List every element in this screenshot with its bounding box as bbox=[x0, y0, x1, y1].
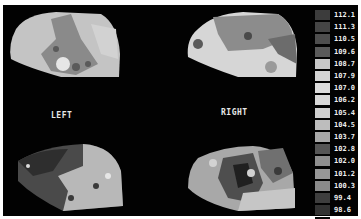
legend-row: 111.3 bbox=[310, 21, 358, 33]
legend-value: 101.2 bbox=[334, 170, 355, 178]
legend-swatch bbox=[315, 22, 330, 32]
legend-swatch bbox=[315, 217, 330, 219]
legend-swatch bbox=[315, 156, 330, 166]
legend-swatch bbox=[315, 120, 330, 130]
legend-row: 112.1 bbox=[310, 9, 358, 21]
legend-swatch bbox=[315, 169, 330, 179]
legend-swatch bbox=[315, 47, 330, 57]
legend-value: 107.9 bbox=[334, 72, 355, 80]
legend-value: 110.5 bbox=[334, 35, 355, 43]
legend-value: 99.4 bbox=[334, 194, 351, 202]
legend-row: 107.9 bbox=[310, 70, 358, 82]
legend-row: 108.7 bbox=[310, 58, 358, 70]
legend-swatch bbox=[315, 71, 330, 81]
legend-swatch bbox=[315, 83, 330, 93]
legend-swatch bbox=[315, 181, 330, 191]
legend-swatch bbox=[315, 132, 330, 142]
legend-value: 98.6 bbox=[334, 206, 351, 214]
legend-value: 108.7 bbox=[334, 60, 355, 68]
right-bottom-map bbox=[183, 143, 298, 213]
legend-row: 109.6 bbox=[310, 46, 358, 58]
legend-swatch bbox=[315, 10, 330, 20]
legend-row: 98.6 bbox=[310, 204, 358, 216]
left-top-map bbox=[6, 9, 121, 79]
legend-row: 102.8 bbox=[310, 143, 358, 155]
legend-swatch bbox=[315, 144, 330, 154]
legend-swatch bbox=[315, 95, 330, 105]
legend-swatch bbox=[315, 205, 330, 215]
color-legend: 112.1111.3110.5109.6108.7107.9107.0106.2… bbox=[310, 9, 358, 219]
legend-row: 105.4 bbox=[310, 107, 358, 119]
legend-row: 103.7 bbox=[310, 131, 358, 143]
legend-value: 97.7 bbox=[334, 218, 351, 219]
left-label: LEFT bbox=[51, 111, 72, 120]
legend-value: 100.3 bbox=[334, 182, 355, 190]
right-label: RIGHT bbox=[221, 108, 248, 117]
legend-value: 111.3 bbox=[334, 23, 355, 31]
legend-value: 105.4 bbox=[334, 109, 355, 117]
legend-value: 103.7 bbox=[334, 133, 355, 141]
figure-panel: LEFT RIGHT 112.1111.3110.5109.6108.7107.… bbox=[3, 5, 358, 216]
legend-row: 100.3 bbox=[310, 180, 358, 192]
right-top-map bbox=[183, 9, 298, 79]
legend-row: 101.2 bbox=[310, 167, 358, 179]
legend-row: 107.0 bbox=[310, 82, 358, 94]
legend-swatch bbox=[315, 193, 330, 203]
legend-row: 104.5 bbox=[310, 119, 358, 131]
legend-row: 99.4 bbox=[310, 192, 358, 204]
legend-row: 97.7 bbox=[310, 216, 358, 219]
legend-value: 102.8 bbox=[334, 145, 355, 153]
legend-value: 106.2 bbox=[334, 96, 355, 104]
left-bottom-map bbox=[13, 141, 123, 213]
legend-swatch bbox=[315, 34, 330, 44]
legend-swatch bbox=[315, 108, 330, 118]
legend-row: 106.2 bbox=[310, 94, 358, 106]
legend-row: 102.0 bbox=[310, 155, 358, 167]
legend-swatch bbox=[315, 59, 330, 69]
legend-value: 107.0 bbox=[334, 84, 355, 92]
legend-value: 112.1 bbox=[334, 11, 355, 19]
legend-row: 110.5 bbox=[310, 33, 358, 45]
legend-value: 102.0 bbox=[334, 157, 355, 165]
legend-value: 104.5 bbox=[334, 121, 355, 129]
legend-value: 109.6 bbox=[334, 48, 355, 56]
